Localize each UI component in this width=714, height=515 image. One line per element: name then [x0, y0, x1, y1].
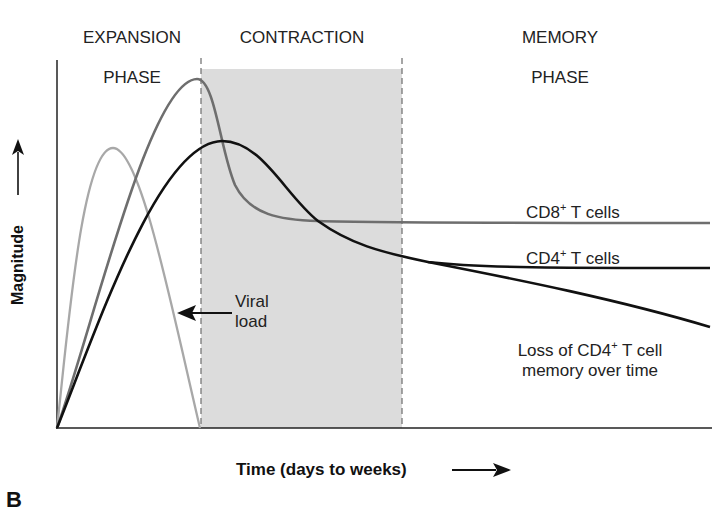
memory-loss-suffix: T cell: [618, 341, 663, 360]
memory-loss-line1: Loss of CD4+ T cell: [490, 335, 690, 361]
viral-label-line1: Viral: [235, 292, 269, 312]
cd4-label-suffix: T cells: [566, 249, 619, 268]
y-axis-label: Magnitude: [9, 225, 27, 305]
panel-label: B: [6, 487, 22, 513]
cd4-label-prefix: CD4: [526, 249, 560, 268]
cd4-label: CD4+ T cells: [526, 243, 620, 269]
memory-loss-label: Loss of CD4+ T cell memory over time: [490, 335, 690, 381]
memory-loss-line2: memory over time: [490, 361, 690, 381]
viral-load-label: Viral load: [235, 292, 269, 332]
x-axis-label: Time (days to weeks): [236, 460, 407, 480]
viral-label-line2: load: [235, 312, 269, 332]
cd4-memory-loss-curve: [428, 262, 710, 327]
cd8-label-prefix: CD8: [526, 203, 560, 222]
cd8-label: CD8+ T cells: [526, 197, 620, 223]
cd8-label-suffix: T cells: [566, 203, 619, 222]
memory-loss-prefix: Loss of CD4: [518, 341, 612, 360]
viral-load-curve: [57, 148, 200, 428]
